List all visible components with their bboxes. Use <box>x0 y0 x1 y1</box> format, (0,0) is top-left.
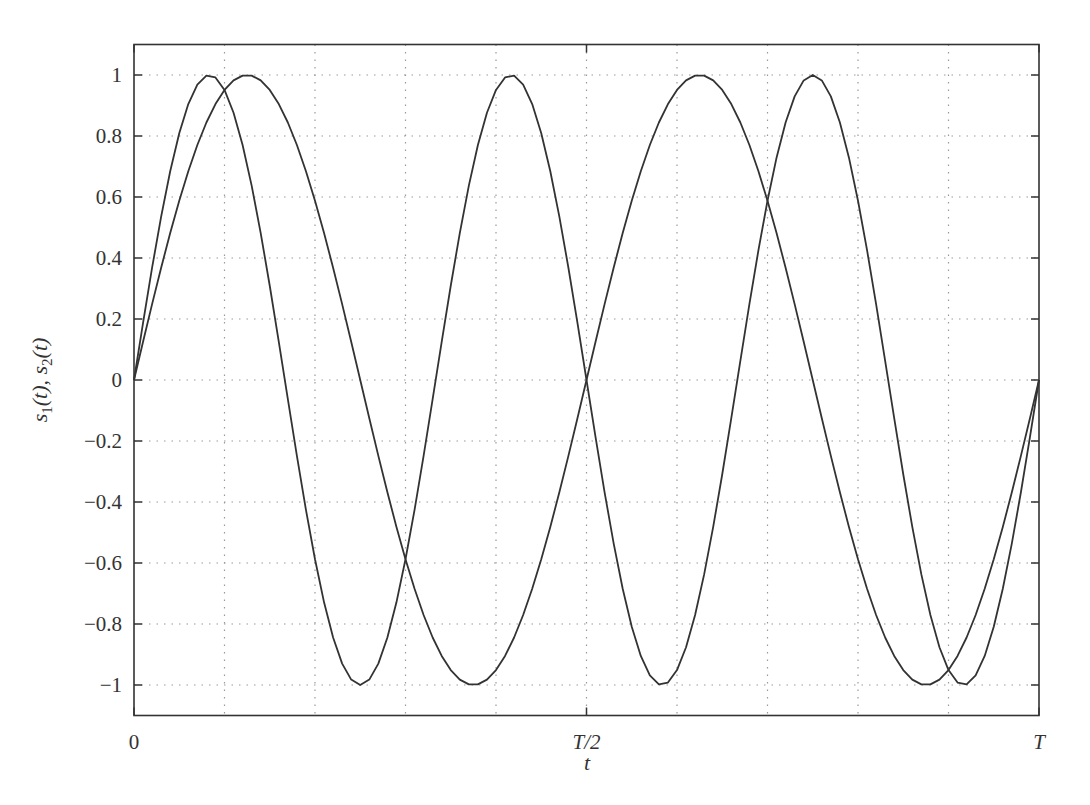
y-tick-label: −0.2 <box>84 429 122 453</box>
y-tick-labels: 10.80.60.40.20−0.2−0.4−0.6−0.8−1 <box>84 63 123 697</box>
y-tick-label: −0.4 <box>84 490 123 514</box>
y-tick-label: 0.6 <box>96 185 122 209</box>
y-tick-label: −0.8 <box>84 612 122 636</box>
y-tick-label: 1 <box>112 63 123 87</box>
x-tick-label: 0 <box>129 730 140 754</box>
x-axis-label: t <box>584 750 591 775</box>
x-tick-label: T <box>1033 730 1046 754</box>
y-tick-label: 0.4 <box>96 246 123 270</box>
y-axis-label: s1(t), s2(t) <box>27 338 55 423</box>
y-tick-label: −1 <box>100 673 122 697</box>
y-tick-label: 0.2 <box>96 307 122 331</box>
y-tick-label: −0.6 <box>84 551 122 575</box>
y-tick-label: 0 <box>112 368 123 392</box>
line-chart: 0T/2T 10.80.60.40.20−0.2−0.4−0.6−0.8−1 t… <box>0 0 1090 805</box>
y-tick-label: 0.8 <box>96 124 122 148</box>
